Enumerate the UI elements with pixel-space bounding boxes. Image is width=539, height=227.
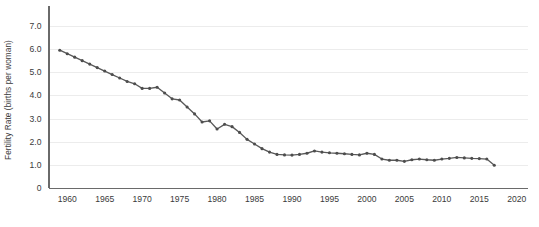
x-tick-label-2005: 2005 bbox=[395, 194, 414, 204]
data-point bbox=[388, 159, 391, 162]
fertility-line bbox=[60, 50, 495, 165]
x-tick-label-2010: 2010 bbox=[432, 194, 451, 204]
y-tick-label-4.0: 4.0 bbox=[30, 90, 42, 100]
data-point bbox=[186, 105, 189, 108]
data-point bbox=[425, 158, 428, 161]
data-point bbox=[373, 153, 376, 156]
y-tick-label-3.0: 3.0 bbox=[30, 114, 42, 124]
data-point bbox=[275, 153, 278, 156]
data-point bbox=[463, 156, 466, 159]
data-point bbox=[148, 87, 151, 90]
data-point bbox=[395, 159, 398, 162]
data-point bbox=[410, 158, 413, 161]
data-point bbox=[298, 153, 301, 156]
data-point bbox=[156, 86, 159, 89]
data-point bbox=[238, 131, 241, 134]
data-point bbox=[58, 49, 61, 52]
data-point bbox=[365, 152, 368, 155]
data-point bbox=[358, 153, 361, 156]
data-point bbox=[201, 120, 204, 123]
data-point bbox=[313, 149, 316, 152]
x-tick-label-1990: 1990 bbox=[282, 194, 301, 204]
data-point bbox=[440, 158, 443, 161]
y-tick-label-5.0: 5.0 bbox=[30, 67, 42, 77]
data-point bbox=[485, 158, 488, 161]
data-point bbox=[126, 80, 129, 83]
gridlines-group bbox=[49, 27, 529, 166]
data-point bbox=[305, 152, 308, 155]
y-axis-title: Fertility Rate (births per woman) bbox=[4, 40, 13, 160]
data-point bbox=[478, 157, 481, 160]
data-point bbox=[335, 152, 338, 155]
data-point bbox=[103, 70, 106, 73]
data-point bbox=[133, 82, 136, 85]
data-point bbox=[253, 142, 256, 145]
data-point bbox=[216, 127, 219, 130]
data-point bbox=[171, 97, 174, 100]
data-point bbox=[350, 153, 353, 156]
x-tick-label-1985: 1985 bbox=[245, 194, 264, 204]
data-point bbox=[163, 92, 166, 95]
x-tick-label-1965: 1965 bbox=[95, 194, 114, 204]
data-point bbox=[433, 159, 436, 162]
data-point bbox=[418, 158, 421, 161]
y-tick-label-7.0: 7.0 bbox=[30, 21, 42, 31]
series-group bbox=[58, 49, 496, 167]
data-point bbox=[141, 87, 144, 90]
data-point bbox=[448, 157, 451, 160]
data-point bbox=[66, 52, 69, 55]
data-point bbox=[470, 157, 473, 160]
y-tick-label-2.0: 2.0 bbox=[30, 137, 42, 147]
data-point bbox=[118, 76, 121, 79]
data-point bbox=[455, 156, 458, 159]
data-point bbox=[111, 73, 114, 76]
x-tick-label-1960: 1960 bbox=[58, 194, 77, 204]
data-point bbox=[493, 164, 496, 167]
y-tick-labels-group: 01.02.03.04.05.06.07.0 bbox=[30, 21, 42, 193]
data-point bbox=[403, 160, 406, 163]
axes-group bbox=[49, 6, 529, 189]
data-point bbox=[73, 56, 76, 59]
data-point bbox=[268, 151, 271, 154]
x-tick-label-2020: 2020 bbox=[507, 194, 526, 204]
data-point bbox=[223, 123, 226, 126]
fertility-rate-chart: 01.02.03.04.05.06.07.0 19601965197019751… bbox=[0, 0, 539, 227]
data-point bbox=[320, 151, 323, 154]
x-tick-label-1980: 1980 bbox=[208, 194, 227, 204]
data-point bbox=[88, 63, 91, 66]
chart-canvas: 01.02.03.04.05.06.07.0 19601965197019751… bbox=[0, 0, 539, 227]
y-tick-label-0: 0 bbox=[37, 183, 42, 193]
data-point bbox=[260, 147, 263, 150]
y-tick-label-1.0: 1.0 bbox=[30, 160, 42, 170]
data-point bbox=[178, 98, 181, 101]
x-tick-label-1995: 1995 bbox=[320, 194, 339, 204]
data-point bbox=[380, 158, 383, 161]
x-tick-label-1975: 1975 bbox=[170, 194, 189, 204]
data-point bbox=[208, 119, 211, 122]
data-point bbox=[193, 112, 196, 115]
data-point bbox=[231, 125, 234, 128]
y-tick-label-6.0: 6.0 bbox=[30, 44, 42, 54]
x-tick-label-1970: 1970 bbox=[133, 194, 152, 204]
data-point bbox=[283, 153, 286, 156]
y-axis-title-group: Fertility Rate (births per woman) bbox=[4, 40, 13, 160]
x-tick-labels-group: 1960196519701975198019851990199520002005… bbox=[58, 194, 527, 204]
data-point bbox=[328, 151, 331, 154]
data-point bbox=[96, 66, 99, 69]
data-point bbox=[290, 154, 293, 157]
x-tick-label-2015: 2015 bbox=[470, 194, 489, 204]
fertility-markers bbox=[58, 49, 496, 167]
data-point bbox=[245, 138, 248, 141]
data-point bbox=[343, 152, 346, 155]
data-point bbox=[81, 59, 84, 62]
x-tick-label-2000: 2000 bbox=[357, 194, 376, 204]
